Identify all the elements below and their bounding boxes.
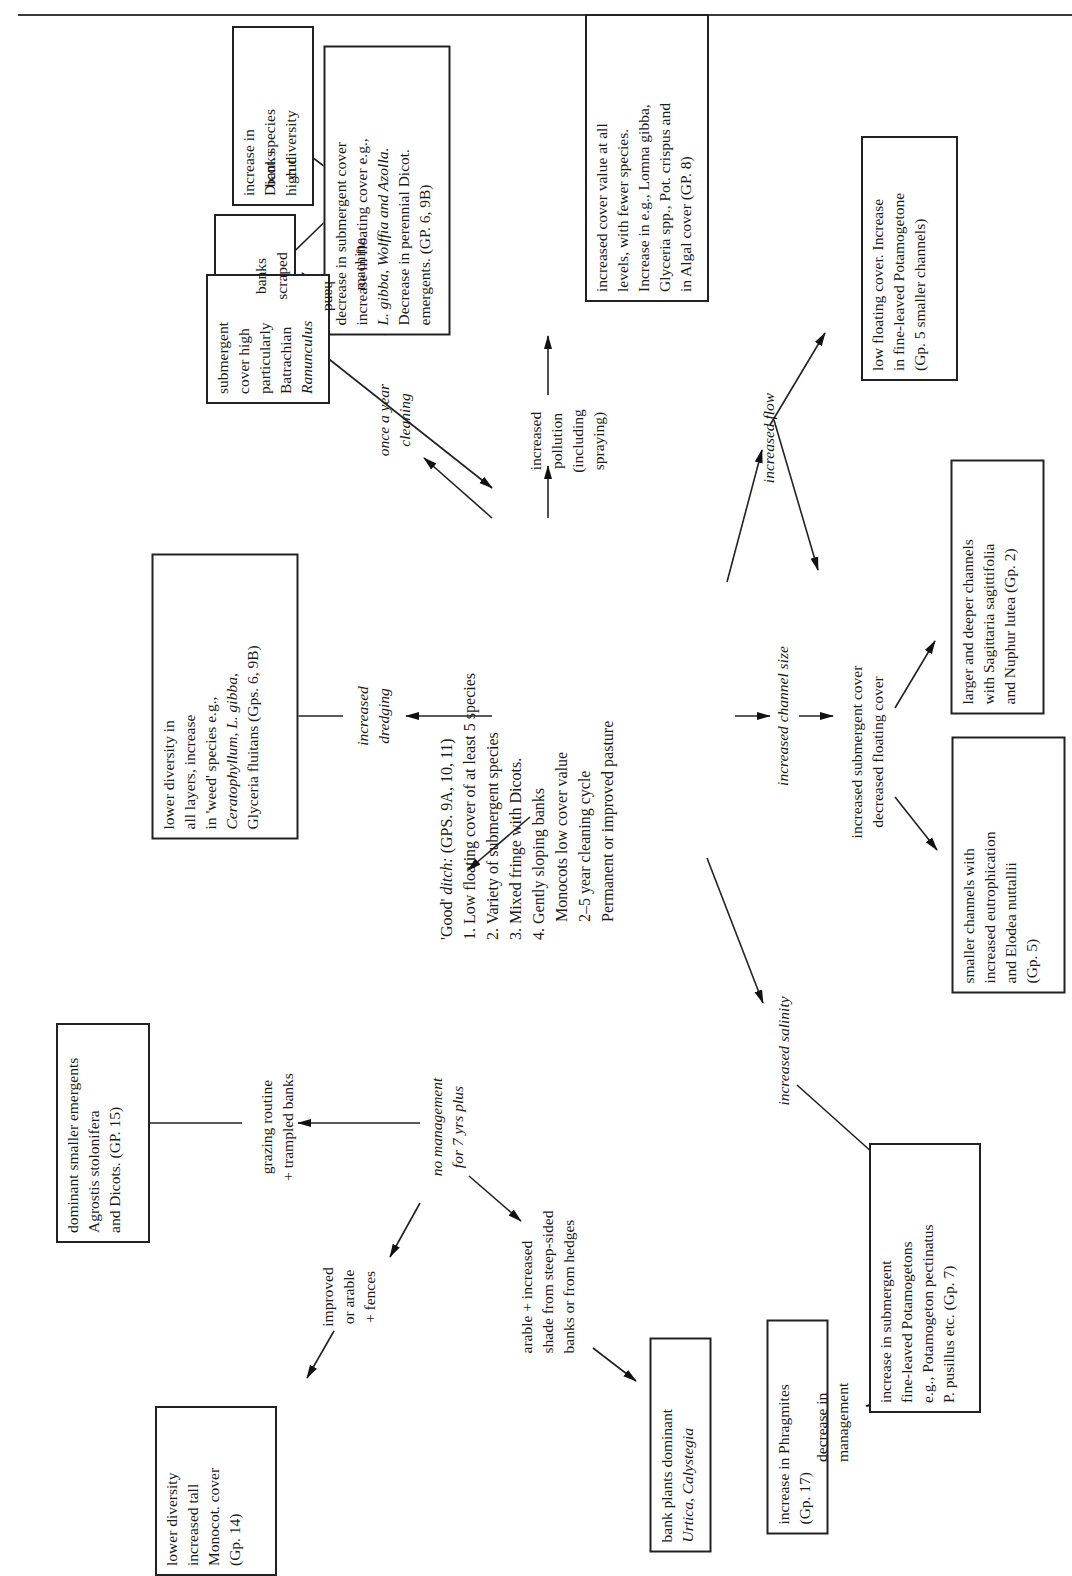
label-arable-shade: arable + increased shade from steep-side… <box>516 1179 582 1354</box>
box-flow-result: low floating cover. Increase in fine-lea… <box>861 136 958 381</box>
label-increased-channel-size: increased channel size <box>772 641 794 791</box>
label-decrease-in-management: decrease in management <box>811 1372 855 1462</box>
label-increased-flow: increased flow <box>758 388 780 488</box>
box-dredging-result: lower diversity in all layers, increase … <box>152 554 299 840</box>
box-pollution-result: increased cover value at all levels, wit… <box>585 14 709 302</box>
good-ditch-description: 'Good' ditch: (GPS. 9A, 10, 11) 1. Low f… <box>435 604 605 940</box>
label-machine: machine <box>349 229 371 299</box>
label-banks-cut: banks cut <box>259 139 303 199</box>
label-improved-arable: improved or arable + fences <box>317 1254 383 1340</box>
label-banks-scraped: banks scraped <box>250 241 294 311</box>
box-machine-result: decrease in submergent cover increase in… <box>324 46 451 336</box>
label-no-management: no management for 7 yrs plus <box>426 1067 470 1187</box>
box-grazing-result: dominant smaller emergents Agrostis stol… <box>56 1023 150 1243</box>
label-increased-submergent: increased submergent cover decreased flo… <box>846 652 890 852</box>
label-once-a-year-cleaning: once a year cleaning <box>373 370 417 470</box>
label-increased-pollution: increased pollution (including spraying) <box>525 400 611 482</box>
box-improved-result: lower diversity increased tall Monocot. … <box>155 1406 277 1576</box>
label-grazing: grazing routine + trampled banks <box>256 1057 300 1197</box>
label-hand: hand <box>319 276 341 316</box>
box-larger-channels: larger and deeper channels with Sagittar… <box>951 460 1045 715</box>
label-increased-salinity: increased salinity <box>773 986 795 1116</box>
label-increased-dredging: increased dredging <box>352 673 396 759</box>
box-bank-plants: bank plants dominant Urtica, Calystegia <box>650 1338 712 1553</box>
box-salinity-result: increase in submergent fine-leaved Potam… <box>869 1143 981 1413</box>
box-smaller-channels: smaller channels with increased eutrophi… <box>952 737 1066 994</box>
